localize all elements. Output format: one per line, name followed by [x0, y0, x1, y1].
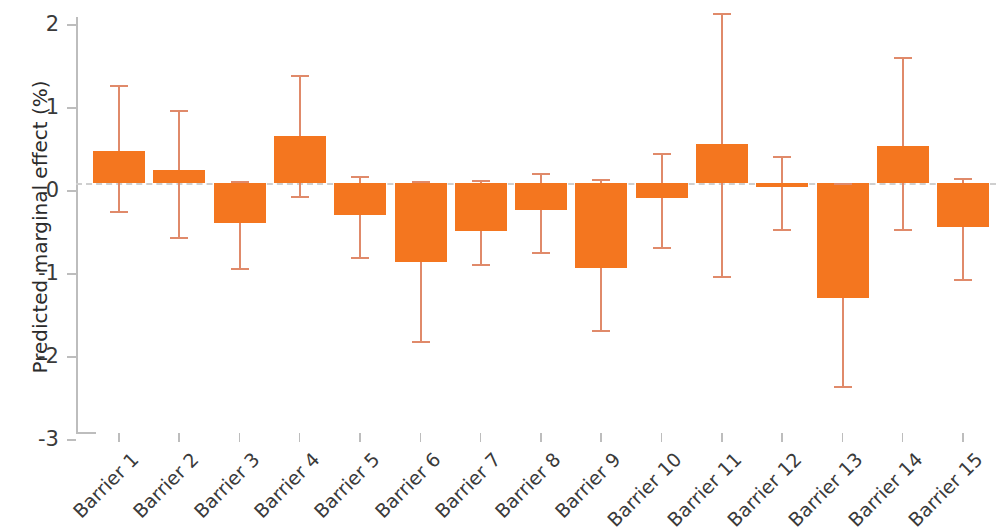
error-bar-cap-lower [773, 229, 791, 231]
x-axis-tick-label: Barrier 7 [430, 448, 504, 522]
error-bar-cap-upper [532, 173, 550, 175]
bar [395, 183, 447, 262]
error-bar-cap-upper [592, 179, 610, 181]
error-bar-cap-upper [351, 176, 369, 178]
x-axis-tick [781, 433, 783, 442]
error-bar-cap-lower [351, 257, 369, 259]
y-axis-tick: 2 [67, 24, 76, 26]
error-bar-cap-lower [472, 264, 490, 266]
x-axis-tick [480, 433, 482, 442]
error-bar-cap-lower [231, 268, 249, 270]
error-bar-cap-upper [773, 156, 791, 158]
x-axis-tick-label: Barrier 1 [68, 448, 142, 522]
x-axis-tick [842, 433, 844, 442]
bar [937, 183, 989, 227]
bar [877, 146, 929, 183]
error-bar-cap-upper [834, 183, 852, 185]
error-bar-cap-upper [954, 178, 972, 180]
x-axis-tick [420, 433, 422, 442]
error-bar-line [661, 153, 663, 247]
error-bar-cap-upper [412, 181, 430, 183]
x-axis-tick [239, 433, 241, 442]
bar [817, 183, 869, 298]
plot-area: 210-1-2-3Barrier 1Barrier 2Barrier 3Barr… [76, 10, 996, 435]
bar [93, 151, 145, 183]
bar [575, 183, 627, 268]
error-bar-cap-lower [592, 330, 610, 332]
error-bar-cap-upper [472, 180, 490, 182]
x-axis-tick-label: Barrier 4 [249, 448, 323, 522]
x-axis-tick [359, 433, 361, 442]
x-axis-tick [540, 433, 542, 442]
y-axis-tick-label: 0 [46, 177, 59, 203]
error-bar-cap-lower [713, 276, 731, 278]
error-bar-cap-upper [291, 75, 309, 77]
error-bar-cap-upper [653, 153, 671, 155]
x-axis-tick [721, 433, 723, 442]
error-bar-cap-upper [231, 181, 249, 183]
y-axis-tick-label: -2 [38, 343, 59, 369]
error-bar-cap-lower [412, 341, 430, 343]
y-axis-label: Predicted marginal effect (%) [28, 17, 52, 437]
bar [515, 183, 567, 210]
y-axis-tick: -3 [67, 439, 76, 441]
error-bar-cap-lower [954, 279, 972, 281]
x-axis-tick [962, 433, 964, 442]
x-axis-stub [76, 432, 96, 434]
y-axis-tick: 1 [67, 107, 76, 109]
x-axis-tick [118, 433, 120, 442]
y-axis-tick: -2 [67, 356, 76, 358]
error-bar-line [781, 156, 783, 230]
y-axis-tick: 0 [67, 190, 76, 192]
error-bar-line [118, 85, 120, 211]
y-axis-tick-label: 1 [46, 94, 59, 120]
y-axis-tick-label: -3 [38, 426, 59, 452]
x-axis-tick-label: Barrier 3 [189, 448, 263, 522]
y-axis-tick-label: -1 [38, 260, 59, 286]
error-bar-cap-lower [834, 386, 852, 388]
error-bar-line [902, 57, 904, 230]
y-axis-tick-label: 2 [46, 11, 59, 37]
bar [214, 183, 266, 223]
x-axis-tick [600, 433, 602, 442]
x-axis-tick [902, 433, 904, 442]
x-axis-tick-label: Barrier 8 [490, 448, 564, 522]
error-bar-cap-lower [110, 211, 128, 213]
y-axis-tick: -1 [67, 273, 76, 275]
bar [334, 183, 386, 215]
x-axis-tick-label: Barrier 2 [129, 448, 203, 522]
error-bar-cap-upper [713, 13, 731, 15]
error-bar-cap-lower [532, 252, 550, 254]
error-bar-cap-upper [894, 57, 912, 59]
error-bar-cap-lower [894, 229, 912, 231]
bar [455, 183, 507, 231]
x-axis-tick-label: Barrier 6 [370, 448, 444, 522]
bar [756, 183, 808, 187]
error-bar-cap-lower [170, 237, 188, 239]
x-axis-tick [178, 433, 180, 442]
error-bar-cap-upper [170, 110, 188, 112]
error-bar-cap-lower [291, 196, 309, 198]
error-bar-cap-upper [110, 85, 128, 87]
bar [636, 183, 688, 198]
bar [696, 144, 748, 183]
x-axis-tick [661, 433, 663, 442]
bar [153, 170, 205, 183]
bar [274, 136, 326, 183]
x-axis-tick [299, 433, 301, 442]
error-bar-cap-lower [653, 247, 671, 249]
x-axis-tick-label: Barrier 5 [310, 448, 384, 522]
